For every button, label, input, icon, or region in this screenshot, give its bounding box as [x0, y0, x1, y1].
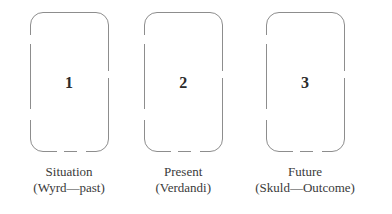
card-position-1: 1 Situation (Wyrd—past) — [14, 12, 124, 196]
card-caption-3-secondary: (Skuld—Outcome) — [255, 180, 355, 196]
scan-artifact — [106, 71, 110, 78]
card-number-2: 2 — [179, 75, 187, 91]
card-caption-2-primary: Present — [155, 164, 211, 180]
card-caption-3: Future (Skuld—Outcome) — [255, 164, 355, 196]
scan-artifact — [29, 109, 33, 120]
card-caption-2: Present (Verdandi) — [155, 164, 211, 196]
card-caption-1: Situation (Wyrd—past) — [33, 164, 104, 196]
card-position-2: 2 Present (Verdandi) — [126, 12, 240, 196]
card-number-3: 3 — [301, 75, 309, 91]
scan-artifact — [220, 71, 224, 78]
scan-artifact — [265, 109, 269, 120]
card-number-1: 1 — [65, 75, 73, 91]
card-caption-2-secondary: (Verdandi) — [155, 180, 211, 196]
scan-artifact — [342, 71, 346, 78]
card-caption-1-secondary: (Wyrd—past) — [33, 180, 104, 196]
card-row: 1 Situation (Wyrd—past) 2 Present (Verda… — [0, 0, 392, 214]
scan-artifact — [77, 149, 86, 153]
card-caption-1-primary: Situation — [33, 164, 104, 180]
scan-artifact — [191, 149, 200, 153]
card-position-3: 3 Future (Skuld—Outcome) — [240, 12, 370, 196]
card-outline-3: 3 — [266, 12, 345, 152]
scan-artifact — [313, 149, 322, 153]
card-outline-1: 1 — [30, 12, 109, 152]
card-outline-2: 2 — [144, 12, 223, 152]
card-caption-3-primary: Future — [255, 164, 355, 180]
three-card-spread-diagram: 1 Situation (Wyrd—past) 2 Present (Verda… — [0, 0, 392, 214]
scan-artifact — [143, 109, 147, 120]
